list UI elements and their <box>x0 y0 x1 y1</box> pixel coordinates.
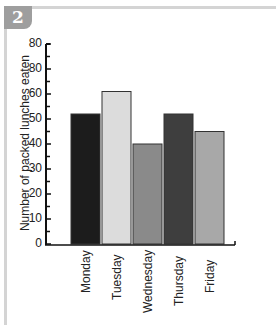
y-tick-label: 80 <box>18 36 42 50</box>
y-tick-label: 60 <box>18 86 42 100</box>
bar-monday <box>71 114 100 244</box>
x-tick-label-wednesday: Wednesday <box>141 250 155 313</box>
y-tick-label: 20 <box>18 186 42 200</box>
y-tick-label: 50 <box>18 111 42 125</box>
y-tick-label: 10 <box>18 211 42 225</box>
y-tick-label: 40 <box>18 136 42 150</box>
y-tick-label: 0 <box>18 236 42 250</box>
bar-thursday <box>164 114 193 244</box>
x-tick-label-monday: Monday <box>79 250 93 293</box>
x-tick-label-tuesday: Tuesday <box>110 254 124 300</box>
x-tick-label-thursday: Thursday <box>172 256 186 306</box>
y-tick-label: 30 <box>18 161 42 175</box>
bar-friday <box>195 132 224 245</box>
bar-chart: Number of packed lunches eaten 010203040… <box>0 0 276 325</box>
bar-wednesday <box>133 144 162 244</box>
x-tick-label-friday: Friday <box>203 259 217 292</box>
bar-tuesday <box>102 92 131 245</box>
y-tick-label: 80 <box>18 61 42 75</box>
